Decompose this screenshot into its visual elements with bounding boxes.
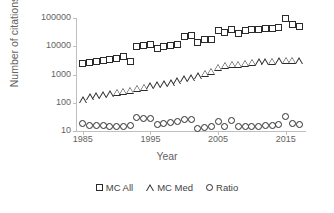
legend-label: MC All	[106, 182, 133, 193]
data-point-circle	[93, 122, 100, 129]
legend-item-mc-all[interactable]: MC All	[96, 182, 133, 193]
data-point-circle	[147, 115, 154, 122]
data-point-circle	[296, 121, 303, 128]
legend-item-mc-med[interactable]: MC Med	[146, 182, 193, 193]
data-point-circle	[289, 120, 296, 127]
square-marker-icon	[96, 184, 103, 191]
data-point-circle	[235, 123, 242, 130]
legend-label: MC Med	[157, 182, 193, 193]
x-tick-mark	[150, 131, 151, 135]
data-point-square	[208, 36, 215, 43]
data-point-square	[296, 23, 303, 30]
data-point-circle	[188, 116, 195, 123]
data-point-square	[275, 24, 282, 31]
data-point-circle	[127, 122, 134, 129]
x-tick-label: 1985	[63, 134, 103, 144]
x-axis-title: Year	[0, 150, 334, 162]
data-point-circle	[282, 113, 289, 120]
data-point-circle	[221, 123, 228, 130]
chart-container: Number of citations 10000010000100010010…	[0, 0, 334, 213]
x-tick-label: 2005	[198, 134, 238, 144]
x-axis-line	[76, 131, 306, 132]
data-point-circle	[181, 116, 188, 123]
triangle-marker-icon	[146, 184, 154, 191]
plot-area	[76, 18, 306, 131]
x-tick-mark	[218, 131, 219, 135]
chart-legend: MC AllMC MedRatio	[0, 182, 334, 193]
x-tick-mark	[286, 131, 287, 135]
legend-label: Ratio	[216, 182, 238, 193]
y-tick-mark	[73, 103, 77, 104]
data-point-square	[174, 41, 181, 48]
y-tick-mark	[73, 131, 77, 132]
data-point-triangle	[295, 57, 303, 64]
data-point-circle	[228, 117, 235, 124]
data-point-circle	[113, 123, 120, 130]
data-point-circle	[275, 121, 282, 128]
x-tick-label: 2015	[266, 134, 306, 144]
y-tick-mark	[73, 46, 77, 47]
data-point-circle	[120, 123, 127, 130]
x-tick-label: 1995	[130, 134, 170, 144]
legend-item-ratio[interactable]: Ratio	[206, 182, 238, 193]
data-point-circle	[208, 123, 215, 130]
y-tick-mark	[73, 18, 77, 19]
y-tick-mark	[73, 75, 77, 76]
data-point-square	[127, 58, 134, 65]
circle-marker-icon	[206, 184, 213, 191]
data-point-circle	[174, 118, 181, 125]
x-tick-mark	[83, 131, 84, 135]
data-point-circle	[262, 122, 269, 129]
data-point-circle	[86, 122, 93, 129]
